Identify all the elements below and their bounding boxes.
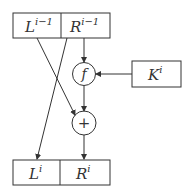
top-left-label: Li−1	[24, 16, 53, 36]
top-right-label: Ri−1	[69, 16, 99, 36]
function-label: f	[80, 66, 89, 82]
top-block: Li−1 Ri−1	[13, 13, 110, 38]
feistel-diagram: Li−1 Ri−1 Ki f + Li Ri	[0, 0, 191, 196]
edge-left-to-xor	[37, 38, 75, 115]
xor-label: +	[78, 114, 91, 132]
bottom-left-label: Li	[28, 163, 42, 183]
bottom-block: Li Ri	[13, 160, 110, 185]
key-label: Ki	[147, 64, 162, 84]
edge-right-to-bottom-left	[37, 38, 67, 159]
function-node: f	[73, 63, 96, 86]
bottom-right-label: Ri	[75, 163, 91, 183]
edges	[37, 38, 132, 159]
xor-node: +	[72, 111, 96, 135]
key-block: Ki	[132, 61, 181, 87]
